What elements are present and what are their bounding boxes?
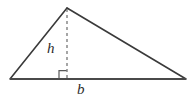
height-label: h bbox=[47, 41, 55, 56]
triangle-left-side bbox=[10, 8, 67, 79]
triangle-area-diagram: h b bbox=[0, 0, 195, 100]
triangle-right-side bbox=[67, 8, 186, 79]
right-angle-marker-icon bbox=[59, 71, 67, 79]
triangle-figure-svg bbox=[0, 0, 195, 100]
base-label: b bbox=[77, 82, 85, 97]
